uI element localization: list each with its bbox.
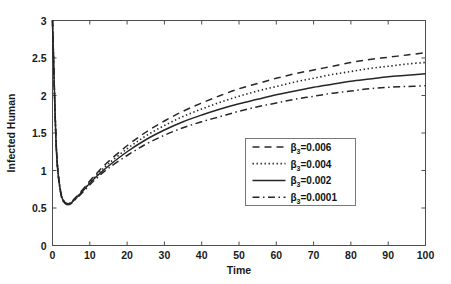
y-axis-tick-label: 1.5 [32, 127, 47, 139]
data-curves-group [53, 21, 426, 205]
y-axis-tick-label: 0.5 [32, 202, 47, 214]
y-axis-tick-label: 2 [41, 90, 47, 102]
tick-labels-group: 010203040506070809010000.511.522.53 [32, 15, 435, 261]
y-axis-tick-label: 3 [41, 15, 47, 27]
y-axis-tick-label: 0 [41, 240, 47, 252]
series-line-beta3-0.006 [53, 21, 426, 204]
series-line-beta3-0.0001 [53, 21, 426, 205]
y-axis-tick-label: 2.5 [32, 52, 47, 64]
x-axis-tick-label: 100 [417, 249, 435, 261]
series-line-beta3-0.002 [53, 21, 426, 205]
figure-canvas: 010203040506070809010000.511.522.53 Time… [0, 0, 451, 284]
axes-frame [53, 21, 426, 246]
x-axis-tick-label: 40 [196, 249, 208, 261]
line-chart: 010203040506070809010000.511.522.53 Time… [0, 0, 451, 284]
x-axis-tick-label: 90 [382, 249, 394, 261]
x-axis-tick-label: 20 [121, 249, 133, 261]
x-axis-tick-label: 0 [50, 249, 56, 261]
y-axis-tick-label: 1 [41, 165, 47, 177]
x-axis-title: Time [227, 264, 251, 276]
plot-box-border [53, 21, 426, 246]
x-axis-tick-label: 80 [345, 249, 357, 261]
axes-ticks-group [53, 21, 426, 246]
series-line-beta3-0.004 [53, 21, 426, 204]
x-axis-tick-label: 50 [233, 249, 245, 261]
x-axis-tick-label: 60 [270, 249, 282, 261]
x-axis-tick-label: 10 [84, 249, 96, 261]
y-axis-title: Infected Human [5, 94, 17, 173]
x-axis-tick-label: 30 [159, 249, 171, 261]
x-axis-tick-label: 70 [308, 249, 320, 261]
chart-legend: β3=0.006β3=0.004β3=0.002β3=0.0001 [246, 139, 356, 206]
